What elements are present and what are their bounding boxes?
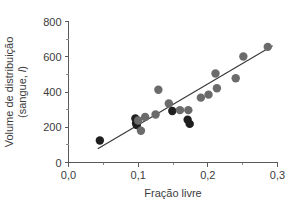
scatter-plot-figure: 02004006008000,00,10,20,3Fração livreVol…	[0, 0, 298, 203]
y-tick-label: 800	[43, 16, 61, 28]
data-point	[165, 99, 173, 107]
data-point	[184, 106, 192, 114]
y-axis-title-line1: Volume de distribuição	[3, 37, 15, 148]
data-point	[141, 113, 149, 121]
data-point	[264, 43, 272, 51]
x-tick-label: 0,2	[200, 169, 215, 181]
x-tick-label: 0,1	[131, 169, 146, 181]
data-point	[186, 120, 194, 128]
y-tick-label: 200	[43, 121, 61, 133]
data-point	[137, 127, 145, 135]
x-tick-label: 0,3	[270, 169, 285, 181]
x-axis-title: Fração livre	[144, 187, 201, 199]
y-tick-label: 600	[43, 51, 61, 63]
data-point	[168, 107, 176, 115]
data-point	[232, 74, 240, 82]
trend-line	[98, 46, 273, 149]
y-tick-label: 400	[43, 86, 61, 98]
data-point	[154, 86, 162, 94]
data-point	[213, 84, 221, 92]
data-point	[96, 136, 104, 144]
data-point	[176, 106, 184, 114]
y-axis-title-line2: (sangue, l)	[16, 66, 28, 118]
x-tick-label: 0,0	[61, 169, 76, 181]
y-tick-label: 0	[55, 157, 61, 169]
chart-canvas: 02004006008000,00,10,20,3Fração livreVol…	[0, 0, 298, 203]
data-point	[211, 69, 219, 77]
data-point-group	[96, 43, 272, 145]
data-point	[204, 90, 212, 98]
data-point	[239, 52, 247, 60]
data-point	[151, 110, 159, 118]
data-point	[197, 93, 205, 101]
